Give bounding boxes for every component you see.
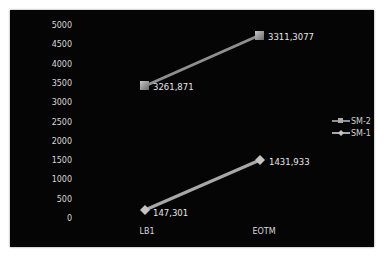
sm-1-line — [145, 160, 260, 210]
legend-label: SM-1 — [351, 129, 371, 138]
x-tick-label: LB1 — [139, 227, 154, 236]
y-tick-label: 0 — [67, 214, 72, 223]
y-tick-label: 4000 — [52, 60, 72, 69]
y-axis: 5000 4500 4000 3500 3000 2500 2000 1500 … — [52, 21, 72, 223]
legend-label: SM-2 — [351, 117, 371, 126]
y-tick-label: 3000 — [52, 98, 72, 107]
square-marker-icon[interactable] — [255, 31, 264, 40]
legend-item-sm-1[interactable]: SM-1 — [332, 129, 371, 138]
data-label: 3311,3077 — [268, 32, 314, 42]
diamond-marker-icon[interactable] — [255, 155, 265, 165]
y-tick-label: 2000 — [52, 137, 72, 146]
y-tick-label: 500 — [57, 195, 72, 204]
data-label: 147,301 — [153, 208, 188, 218]
y-tick-label: 3500 — [52, 79, 72, 88]
data-label: 1431,933 — [269, 157, 310, 167]
x-tick-label: EOTM — [252, 227, 275, 236]
y-tick-label: 1500 — [52, 156, 72, 165]
x-axis: LB1 EOTM — [139, 227, 275, 236]
square-marker-icon — [338, 118, 343, 123]
y-tick-label: 4500 — [52, 40, 72, 49]
legend: SM-2 SM-1 — [332, 117, 371, 138]
y-tick-label: 2500 — [52, 118, 72, 127]
diamond-marker-icon — [338, 130, 344, 136]
data-label: 3261,871 — [153, 82, 194, 92]
series-sm-1: 147,301 1431,933 — [140, 155, 310, 218]
square-marker-icon[interactable] — [140, 81, 149, 90]
y-tick-label: 5000 — [52, 21, 72, 30]
y-tick-label: 1000 — [52, 175, 72, 184]
legend-item-sm-2[interactable]: SM-2 — [332, 117, 371, 126]
chart-frame: 5000 4500 4000 3500 3000 2500 2000 1500 … — [10, 10, 374, 247]
diamond-marker-icon[interactable] — [140, 205, 150, 215]
sm-2-line — [145, 35, 260, 86]
series-sm-2: 3261,871 3311,3077 — [140, 31, 314, 92]
line-chart: 5000 4500 4000 3500 3000 2500 2000 1500 … — [10, 10, 374, 247]
